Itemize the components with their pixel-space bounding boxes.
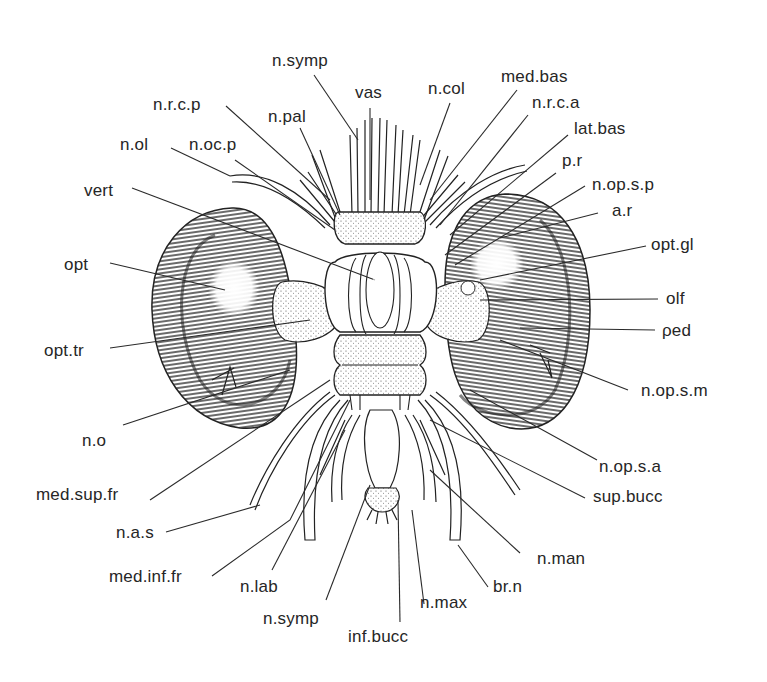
brain-highlight — [372, 268, 388, 312]
label-n-op-s-a: n.op.s.a — [599, 458, 661, 476]
label-ped: ρed — [662, 322, 691, 340]
label-olf: olf — [666, 290, 685, 308]
label-n-ol: n.ol — [120, 136, 148, 154]
label-n-max: n.max — [420, 594, 467, 612]
label-opt: opt — [64, 256, 88, 274]
label-br-n: br.n — [493, 578, 522, 596]
label-med-sup-fr: med.sup.fr — [36, 486, 118, 504]
label-opt-tr: opt.tr — [44, 342, 84, 360]
label-a-r: a.r — [612, 202, 632, 220]
label-n-lab: n.lab — [240, 578, 278, 596]
label-med-bas: med.bas — [501, 68, 568, 86]
label-n-symp-bottom: n.symp — [263, 610, 319, 628]
label-n-op-s-p: n.op.s.p — [592, 176, 654, 194]
label-med-inf-fr: med.inf.fr — [109, 568, 182, 586]
label-n-r-c-p: n.r.c.p — [153, 96, 201, 114]
label-n-op-s-m: n.op.s.m — [641, 382, 708, 400]
label-n-a-s: n.a.s — [116, 524, 154, 542]
label-opt-gl: opt.gl — [651, 236, 694, 254]
label-n-r-c-a: n.r.c.a — [532, 94, 580, 112]
label-lat-bas: lat.bas — [574, 120, 626, 138]
label-n-symp-top: n.symp — [272, 52, 328, 70]
label-inf-bucc: inf.bucc — [348, 628, 408, 646]
label-vert: vert — [84, 182, 113, 200]
label-sup-bucc: sup.bucc — [593, 488, 663, 506]
label-p-r: p.r — [562, 152, 582, 170]
label-n-oc-p: n.oc.p — [189, 136, 237, 154]
label-vas: vas — [355, 84, 382, 102]
label-n-pal: n.pal — [268, 108, 306, 126]
label-n-man: n.man — [537, 550, 585, 568]
label-n-o: n.o — [82, 432, 106, 450]
label-n-col: n.col — [428, 80, 465, 98]
